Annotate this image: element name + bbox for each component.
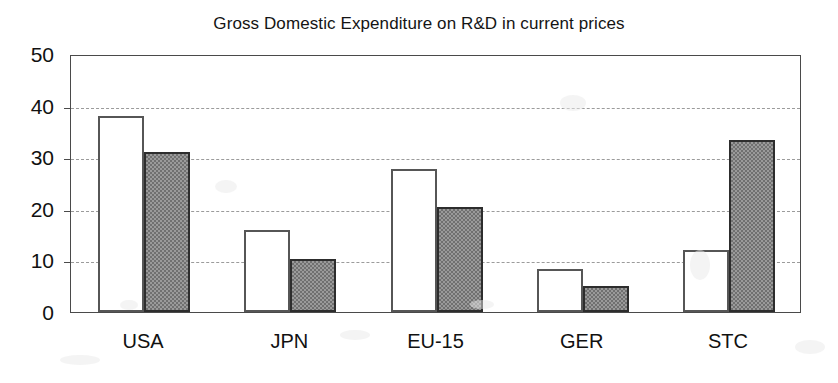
bar-usa-series-1: [98, 116, 144, 312]
y-tick-label-50: 50: [8, 44, 54, 65]
x-tick-label-ger: GER: [522, 330, 642, 353]
y-tick-label-30: 30: [8, 147, 54, 168]
bar-eu-15-series-1: [391, 169, 437, 312]
y-tick-mark-10: [64, 262, 71, 263]
bar-ger-series-2: [583, 286, 629, 312]
bar-jpn-series-2: [290, 259, 336, 312]
x-tick-label-jpn: JPN: [229, 330, 349, 353]
scan-artifact: [795, 340, 825, 354]
chart-figure: Gross Domestic Expenditure on R&D in cur…: [0, 0, 838, 383]
chart-title: Gross Domestic Expenditure on R&D in cur…: [0, 14, 838, 34]
x-tick-label-eu-15: EU-15: [376, 330, 496, 353]
bar-stc-series-1: [683, 250, 729, 312]
gridline-40: [71, 108, 800, 109]
y-tick-label-0: 0: [8, 302, 54, 323]
y-tick-label-40: 40: [8, 96, 54, 117]
bar-jpn-series-1: [244, 230, 290, 312]
x-tick-label-stc: STC: [668, 330, 788, 353]
y-tick-mark-30: [64, 159, 71, 160]
bar-stc-series-2: [729, 140, 775, 312]
y-tick-mark-40: [64, 108, 71, 109]
y-tick-label-20: 20: [8, 199, 54, 220]
plot-area: [70, 55, 801, 313]
x-tick-label-usa: USA: [83, 330, 203, 353]
scan-artifact: [60, 355, 100, 365]
bar-usa-series-2: [144, 152, 190, 312]
y-tick-label-10: 10: [8, 250, 54, 271]
y-tick-mark-20: [64, 211, 71, 212]
bar-ger-series-1: [537, 269, 583, 312]
bar-eu-15-series-2: [437, 207, 483, 312]
